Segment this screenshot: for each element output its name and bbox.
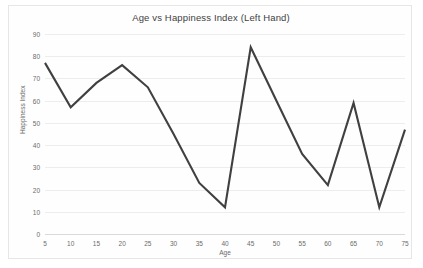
x-tick-label: 65 (350, 240, 357, 247)
y-tick-label: 50 (33, 119, 40, 126)
x-tick-label: 15 (93, 240, 100, 247)
y-tick-label: 60 (33, 97, 40, 104)
x-tick-label: 40 (221, 240, 228, 247)
x-tick-label: 10 (67, 240, 74, 247)
x-tick-label: 5 (43, 240, 47, 247)
y-tick-label: 10 (33, 208, 40, 215)
x-tick-label: 20 (119, 240, 126, 247)
chart-title: Age vs Happiness Index (Left Hand) (9, 12, 413, 23)
y-tick-label: 80 (33, 53, 40, 60)
y-tick-label: 30 (33, 164, 40, 171)
x-tick-label: 25 (144, 240, 151, 247)
x-tick-label: 45 (247, 240, 254, 247)
x-tick-label: 30 (170, 240, 177, 247)
y-tick-label: 20 (33, 186, 40, 193)
x-tick-label: 70 (376, 240, 383, 247)
series-line-happiness-index (45, 34, 405, 234)
y-tick-label: 0 (36, 231, 40, 238)
chart-frame: Age vs Happiness Index (Left Hand) Happi… (8, 5, 412, 259)
x-tick-label: 55 (299, 240, 306, 247)
series-polyline (45, 47, 405, 207)
x-tick-label: 35 (196, 240, 203, 247)
plot-area: 9080706050403020100 51015202530354045505… (45, 34, 405, 234)
gridline (45, 234, 405, 235)
x-tick-label: 50 (273, 240, 280, 247)
y-tick-label: 40 (33, 142, 40, 149)
x-axis-label: Age (45, 249, 405, 256)
x-tick-label: 75 (401, 240, 408, 247)
y-tick-label: 70 (33, 75, 40, 82)
y-tick-label: 90 (33, 31, 40, 38)
x-tick-label: 60 (324, 240, 331, 247)
y-axis-label: Happiness Index (19, 86, 26, 134)
